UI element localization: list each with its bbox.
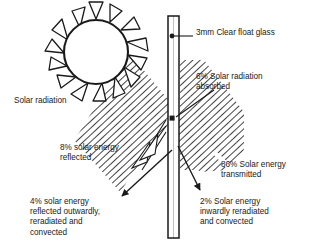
- label-absorbed-6: 6% Solar radiation absorbed: [196, 72, 263, 92]
- absorption-dot: [170, 116, 175, 121]
- diagram-canvas: 3mm Clear float glass 6% Solar radiation…: [0, 0, 324, 252]
- label-reflected-outward-4: 4% solar energy reflected outwardly, rer…: [30, 197, 100, 238]
- label-transmitted-86: 86% Solar energy transmitted: [221, 160, 286, 180]
- sun-disc: [64, 20, 128, 84]
- label-reflected-8: 8% solar energy reflected: [60, 143, 119, 163]
- sun-symbol: [45, 2, 148, 101]
- glass-pane: [168, 16, 179, 238]
- glass-callout: [170, 34, 193, 39]
- glass-callout-dot: [170, 34, 175, 39]
- label-glass-thickness: 3mm Clear float glass: [196, 28, 275, 38]
- label-incident-radiation: Solar radiation: [14, 96, 67, 106]
- label-reradiated-inward-2: 2% Solar energy inwardly reradiated and …: [200, 197, 269, 228]
